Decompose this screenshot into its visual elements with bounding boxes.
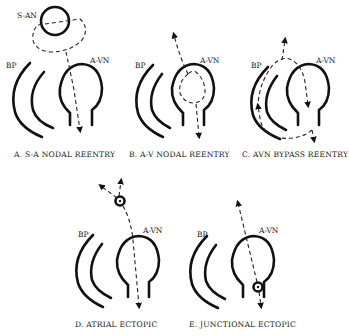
ectopic-path-left [101, 186, 117, 198]
ectopic-path-up [119, 181, 121, 196]
bypass-arc-inner [205, 245, 225, 299]
bp-label: BP [6, 61, 17, 70]
sa-node-circle [41, 7, 69, 35]
avn-label: A-VN [315, 56, 336, 65]
panel-b: BP A-VN B. A-V NODAL REENTRY [129, 35, 230, 159]
bypass-arc-outer [13, 63, 42, 137]
avn-label: A-VN [258, 226, 279, 235]
bypass-arc-outer [76, 235, 103, 307]
reentry-diagram: S-AN BP A-VN A. S-A NODAL REENTRY BP A-V… [0, 0, 349, 336]
ventricular-exit-path [312, 130, 314, 140]
atrial-exit-path [282, 40, 285, 60]
panel-caption: D. ATRIAL ECTOPIC [75, 320, 157, 329]
panel-d: BP A-VN D. ATRIAL ECTOPIC [75, 181, 163, 329]
antegrade-path [196, 104, 199, 136]
av-node-bulb [117, 236, 159, 297]
panel-a: S-AN BP A-VN A. S-A NODAL REENTRY [6, 7, 116, 159]
bypass-arc-inner [151, 74, 170, 128]
avn-label: A-VN [199, 56, 220, 65]
panel-c: BP A-VN C. AVN BYPASS REENTRY [242, 40, 349, 159]
panel-caption: B. A-V NODAL REENTRY [129, 150, 230, 159]
panel-caption: A. S-A NODAL REENTRY [13, 150, 116, 159]
bypass-arc-inner [266, 76, 286, 130]
bypass-arc-inner [32, 72, 53, 128]
bp-label: BP [197, 230, 208, 239]
reentry-loop [180, 71, 205, 103]
panel-caption: C. AVN BYPASS REENTRY [242, 150, 349, 159]
av-node-bulb [60, 64, 102, 125]
panel-caption: E. JUNCTIONAL ECTOPIC [189, 320, 296, 329]
bp-label: BP [78, 230, 89, 239]
san-label: S-AN [17, 11, 37, 20]
conduction-path [123, 206, 139, 306]
antegrade-path [259, 292, 261, 306]
ectopic-focus-center [119, 200, 121, 202]
av-node-bulb [172, 64, 214, 125]
bp-label: BP [251, 61, 262, 70]
avn-label: A-VN [142, 226, 163, 235]
bp-label: BP [135, 61, 146, 70]
bypass-arc-inner [91, 244, 111, 298]
av-node-bulb [287, 64, 329, 125]
avn-label: A-VN [89, 56, 110, 65]
bypass-arc-outer [136, 65, 163, 137]
panel-e: BP A-VN E. JUNCTIONAL ECTOPIC [189, 203, 296, 329]
ectopic-focus-center [257, 286, 259, 288]
